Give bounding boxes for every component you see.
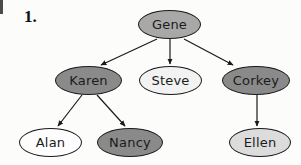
edge-karen-nancy bbox=[97, 95, 125, 126]
node-label-steve: Steve bbox=[151, 73, 189, 88]
node-label-alan: Alan bbox=[36, 135, 66, 150]
node-corkey[interactable]: Corkey bbox=[222, 66, 290, 95]
node-gene[interactable]: Gene bbox=[138, 10, 201, 39]
node-alan[interactable]: Alan bbox=[19, 128, 82, 157]
node-ellen[interactable]: Ellen bbox=[229, 128, 291, 157]
node-label-corkey: Corkey bbox=[233, 73, 279, 88]
diagram-canvas: 1. GeneKarenSteveCorkeyAlanNancyEllen bbox=[0, 0, 301, 165]
node-label-nancy: Nancy bbox=[109, 135, 151, 150]
edge-karen-alan bbox=[58, 95, 82, 126]
node-label-gene: Gene bbox=[152, 17, 187, 32]
node-label-karen: Karen bbox=[69, 73, 108, 88]
node-label-ellen: Ellen bbox=[244, 135, 277, 150]
edge-gene-corkey bbox=[184, 39, 233, 65]
node-karen[interactable]: Karen bbox=[55, 66, 122, 95]
edge-gene-karen bbox=[101, 39, 157, 65]
node-steve[interactable]: Steve bbox=[139, 66, 202, 95]
node-nancy[interactable]: Nancy bbox=[97, 128, 163, 157]
